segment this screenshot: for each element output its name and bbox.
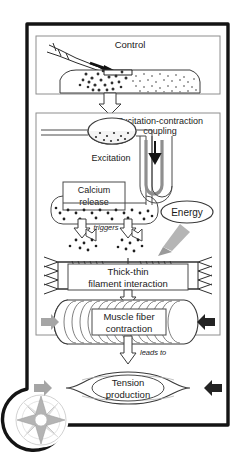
filament-interaction-box: Thick-thin filament interaction xyxy=(68,264,188,290)
energy-badge: Energy xyxy=(161,201,213,223)
calcium-release-box: Calcium release xyxy=(63,182,125,210)
panel-ec-coupling: Excitation-contraction coupling xyxy=(36,113,220,344)
triggers-label: triggers xyxy=(93,223,118,232)
panel-control: Control xyxy=(36,36,220,94)
muscle-fiber-line2: contraction xyxy=(106,323,152,334)
energy-label: Energy xyxy=(171,207,203,218)
leads-to-label: leads to xyxy=(140,348,166,357)
calcium-release-line2: release xyxy=(79,197,109,207)
tension-line1: Tension xyxy=(112,377,145,388)
figure-canvas: Control Excitation-contraction coupling xyxy=(0,0,243,467)
filament-interaction-line1: Thick-thin xyxy=(107,266,148,277)
compass-rose-icon xyxy=(14,393,69,448)
panel-ec-title-line2: coupling xyxy=(143,126,177,136)
muscle-fiber-line1: Muscle fiber xyxy=(103,311,154,322)
motor-end-plate xyxy=(88,118,136,144)
calcium-release-line1: Calcium xyxy=(78,185,111,195)
tension-line2: production xyxy=(106,389,150,400)
excitation-label: Excitation xyxy=(91,153,130,163)
muscle-fiber-surface xyxy=(60,70,200,93)
panel-control-title: Control xyxy=(115,39,146,50)
filament-interaction-line2: filament interaction xyxy=(88,278,168,289)
